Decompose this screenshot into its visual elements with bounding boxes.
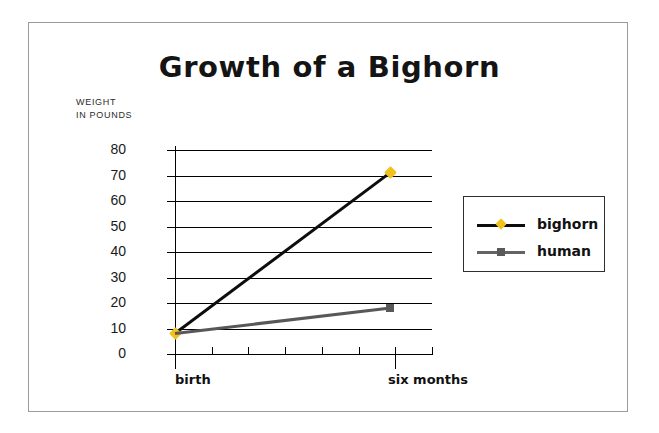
y-tick-label: 30 [82,269,126,285]
legend-label-human: human [537,243,591,259]
y-tick-label: 10 [82,320,126,336]
x-tick [322,347,323,355]
gridline [175,201,432,202]
x-tick [395,347,396,369]
x-tick [212,347,213,355]
gridline [175,150,432,151]
x-tick-label-birth: birth [175,372,211,387]
y-tick-label: 20 [82,294,126,310]
x-tick-label-six-months: six months [388,372,468,387]
y-tick-label: 70 [82,167,126,183]
x-tick [175,347,176,369]
y-tick-label: 0 [82,345,126,361]
legend-label-bighorn: bighorn [537,216,598,232]
legend-box: bighorn human [463,196,605,272]
x-tick [432,347,433,355]
gridline [175,278,432,279]
x-tick [359,347,360,355]
gridline [175,252,432,253]
chart-page: Growth of a Bighorn WEIGHT IN POUNDS 807… [0,0,659,433]
x-axis-line [175,354,432,355]
data-point-human [386,304,394,312]
y-tick-label: 60 [82,192,126,208]
y-tick-label: 50 [82,218,126,234]
gridline [175,227,432,228]
x-tick [285,347,286,355]
x-tick [248,347,249,355]
legend-marker-square-icon [497,248,505,256]
y-tick-label: 80 [82,141,126,157]
legend-item-bighorn[interactable]: bighorn [464,214,606,236]
legend-item-human[interactable]: human [464,241,606,263]
legend-marker-diamond-icon [495,218,506,229]
y-tick-label: 40 [82,243,126,259]
